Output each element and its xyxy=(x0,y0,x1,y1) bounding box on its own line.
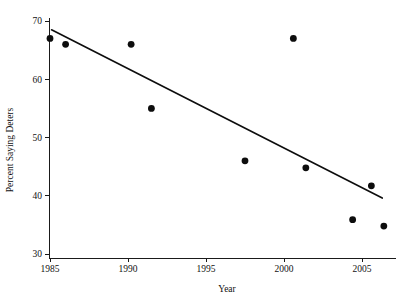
data-point xyxy=(148,105,155,112)
scatter-chart: 3040506070 19851990199520002005 Year Per… xyxy=(0,0,404,303)
data-point xyxy=(290,35,297,42)
y-tick-label: 30 xyxy=(33,249,43,259)
y-axis-title: Percent Saying Deters xyxy=(5,107,15,192)
x-axis: 19851990199520002005 xyxy=(41,258,397,274)
data-point xyxy=(349,216,356,223)
y-tick-label: 70 xyxy=(33,16,43,26)
data-series xyxy=(47,35,388,229)
x-axis-title: Year xyxy=(218,284,236,294)
data-point xyxy=(47,35,54,42)
y-tick-label: 50 xyxy=(33,133,43,143)
data-point xyxy=(368,182,375,189)
x-tick-label: 2000 xyxy=(275,264,294,274)
y-axis: 3040506070 xyxy=(33,16,50,259)
data-point xyxy=(380,223,387,230)
plot-canvas: 3040506070 19851990199520002005 Year Per… xyxy=(0,0,404,303)
trend-line xyxy=(52,30,383,198)
y-tick-label: 40 xyxy=(33,191,43,201)
data-point xyxy=(62,41,69,48)
x-tick-label: 1995 xyxy=(197,264,216,274)
x-tick-label: 2005 xyxy=(353,264,372,274)
x-tick-label: 1985 xyxy=(41,264,60,274)
y-tick-label: 60 xyxy=(33,75,43,85)
data-point xyxy=(302,164,309,171)
data-point xyxy=(242,157,249,164)
x-tick-label: 1990 xyxy=(119,264,138,274)
data-point xyxy=(128,41,135,48)
trend-line-group xyxy=(52,30,383,198)
